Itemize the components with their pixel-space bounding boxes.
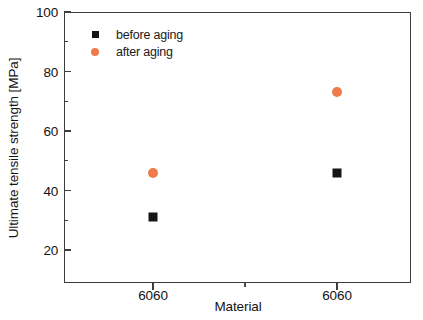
square-marker-icon: [84, 31, 106, 38]
y-tick-major: [64, 249, 71, 250]
y-tick-minor: [64, 101, 68, 102]
legend-label: before aging: [116, 28, 183, 42]
circle-marker-icon: [84, 48, 106, 56]
y-tick-major: [64, 130, 71, 131]
y-tick-label: 20: [2, 243, 58, 258]
y-axis-title-text: Ultimate tensile strength [MPa]: [6, 58, 21, 239]
data-point: [333, 168, 342, 177]
data-point: [148, 168, 158, 178]
legend-label: after aging: [116, 45, 173, 59]
y-tick-label: 60: [2, 124, 58, 139]
legend-item-before-aging: before aging: [84, 26, 234, 43]
y-tick-major: [64, 190, 71, 191]
y-tick-major: [64, 11, 71, 12]
y-tick-major: [64, 71, 71, 72]
x-axis-title: Material: [64, 299, 412, 314]
y-tick-label: 100: [2, 5, 58, 20]
legend-item-after-aging: after aging: [84, 43, 234, 60]
data-point: [149, 213, 158, 222]
y-tick-minor: [64, 41, 68, 42]
y-tick-minor: [64, 160, 68, 161]
chart-legend: before aging after aging: [84, 26, 234, 60]
data-point: [332, 87, 342, 97]
y-tick-minor: [64, 220, 68, 221]
y-tick-label: 80: [2, 64, 58, 79]
x-tick-minor: [244, 283, 245, 287]
chart-figure: Ultimate tensile strength [MPa] 10080604…: [0, 0, 423, 320]
y-tick-label: 40: [2, 183, 58, 198]
